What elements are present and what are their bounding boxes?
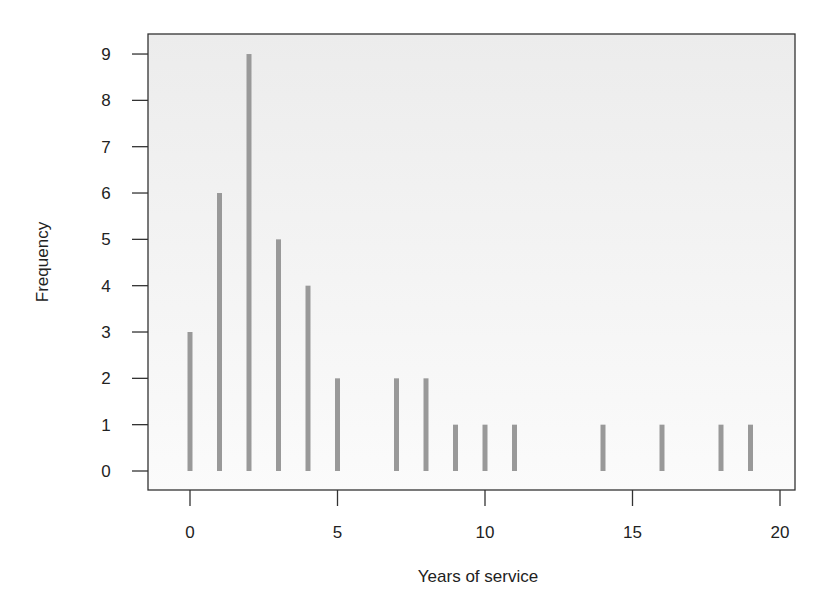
bar-year-2 [247, 54, 252, 471]
bar-year-19 [748, 425, 753, 471]
bar-year-5 [335, 378, 340, 471]
y-tick-label: 0 [101, 462, 110, 481]
y-tick-label: 6 [101, 184, 110, 203]
bar-year-1 [217, 193, 222, 471]
bar-year-10 [483, 425, 488, 471]
x-tick-label: 0 [185, 523, 194, 542]
x-axis-title: Years of service [418, 567, 538, 586]
y-tick-label: 8 [101, 91, 110, 110]
plot-area [148, 34, 795, 490]
bar-year-18 [719, 425, 724, 471]
bar-year-11 [512, 425, 517, 471]
y-tick-label: 1 [101, 416, 110, 435]
bar-year-0 [188, 332, 193, 471]
y-tick-label: 4 [101, 277, 110, 296]
y-axis-title: Frequency [33, 221, 52, 302]
bar-year-14 [601, 425, 606, 471]
x-axis: 05101520 [185, 490, 789, 542]
x-tick-label: 5 [333, 523, 342, 542]
y-tick-label: 9 [101, 45, 110, 64]
y-tick-label: 7 [101, 138, 110, 157]
x-tick-label: 20 [771, 523, 790, 542]
x-tick-label: 10 [476, 523, 495, 542]
bar-year-9 [453, 425, 458, 471]
bar-year-4 [306, 286, 311, 471]
frequency-chart: 0123456789 05101520 Years of service Fre… [0, 0, 828, 611]
bar-year-8 [424, 378, 429, 471]
x-tick-label: 15 [623, 523, 642, 542]
y-tick-label: 5 [101, 230, 110, 249]
y-tick-label: 2 [101, 369, 110, 388]
bar-year-3 [276, 239, 281, 471]
bar-year-16 [660, 425, 665, 471]
bar-year-7 [394, 378, 399, 471]
y-tick-label: 3 [101, 323, 110, 342]
y-axis: 0123456789 [101, 45, 148, 481]
